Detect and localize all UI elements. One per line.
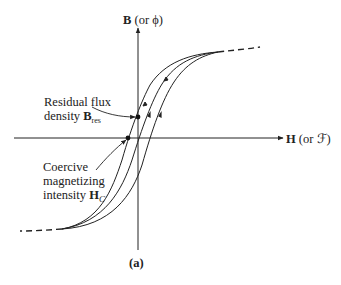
residual-flux-point — [136, 115, 141, 120]
y-axis-alt: (or ϕ) — [134, 13, 162, 27]
x-axis-symbol: H — [286, 132, 296, 146]
coercive-line3: intensity HC — [43, 188, 105, 206]
residual-line2: density Bres — [44, 109, 111, 128]
x-axis-label: H (or ℱ) — [286, 132, 331, 146]
coercive-subscript: C — [99, 194, 105, 204]
x-axis-alt: (or ℱ) — [299, 132, 331, 146]
saturation-upper — [218, 47, 260, 52]
figure-caption: (a) — [129, 256, 144, 270]
y-axis-label: B (or ϕ) — [123, 13, 163, 27]
coercive-line2: magnetizing — [43, 174, 105, 188]
coercive-label: Coercive magnetizing intensity HC — [43, 160, 105, 206]
direction-arrow-upper — [164, 77, 168, 81]
coercive-point — [126, 136, 131, 141]
residual-symbol: B — [83, 109, 91, 123]
direction-arrow-left — [143, 102, 147, 106]
residual-line1: Residual flux — [44, 95, 111, 109]
y-axis-symbol: B — [123, 13, 131, 27]
coercive-line1: Coercive — [43, 160, 105, 174]
saturation-lower — [20, 229, 62, 231]
residual-flux-label: Residual flux density Bres — [44, 95, 111, 128]
residual-subscript: res — [92, 116, 101, 125]
direction-arrow-right — [159, 113, 161, 117]
coercive-symbol: H — [89, 188, 99, 202]
coercive-text: intensity — [43, 188, 89, 202]
residual-text: density — [44, 109, 83, 123]
